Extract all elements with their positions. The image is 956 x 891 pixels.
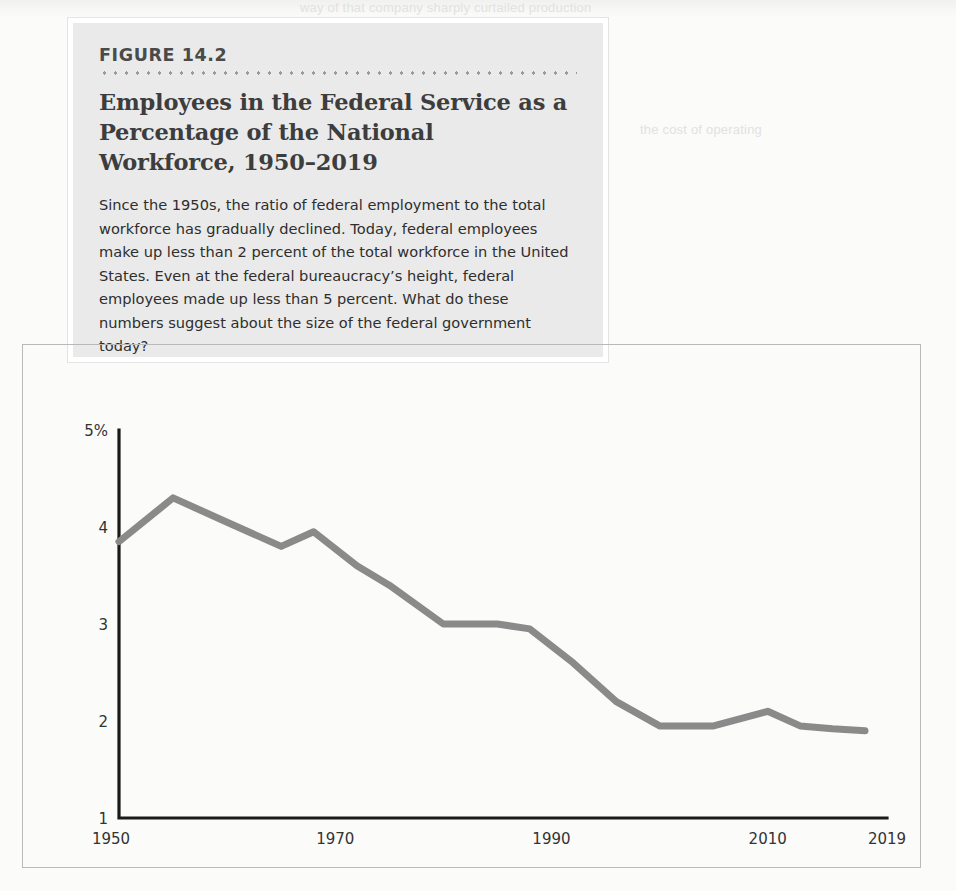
ghost-text-line-1: way of that company sharply curtailed pr… [300, 0, 860, 15]
figure-description: Since the 1950s, the ratio of federal em… [99, 193, 569, 358]
x-axis-tick-labels: 19501970199020102019 [92, 830, 906, 848]
chart-container: 5%4321 19501970199020102019 [22, 344, 921, 868]
y-axis-tick-1: 1 [98, 810, 108, 828]
y-axis-tick-labels: 5%4321 [84, 422, 108, 828]
y-axis-tick-4: 4 [98, 519, 108, 537]
figure-number: FIGURE 14.2 [99, 45, 577, 65]
figure-caption-panel: FIGURE 14.2 Employees in the Federal Ser… [68, 18, 608, 362]
x-axis-tick-1950: 1950 [92, 830, 130, 848]
line-chart: 5%4321 19501970199020102019 [22, 344, 921, 868]
y-axis-tick-2: 2 [98, 713, 108, 731]
y-axis-tick-5%: 5% [84, 422, 108, 440]
dotted-divider [99, 71, 577, 75]
y-axis-tick-3: 3 [98, 616, 108, 634]
x-axis-tick-2010: 2010 [749, 830, 787, 848]
ghost-text-line-2: the cost of operating [640, 122, 890, 137]
x-axis-tick-2019: 2019 [868, 830, 906, 848]
x-axis-tick-1970: 1970 [316, 830, 354, 848]
figure-title: Employees in the Federal Service as a Pe… [99, 87, 577, 177]
data-series-line [119, 498, 865, 731]
x-axis-tick-1990: 1990 [532, 830, 570, 848]
